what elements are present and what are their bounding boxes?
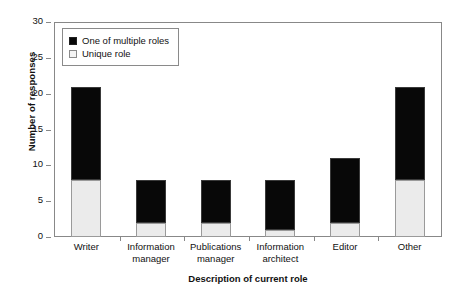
chart-legend: One of multiple roles Unique role (62, 28, 179, 66)
bar-segment-unique-role (201, 223, 231, 237)
x-axis-category-label-line: Writer (54, 241, 119, 253)
x-axis-category-label-line: Other (377, 241, 442, 253)
bar-segment-unique-role (71, 180, 101, 237)
x-axis-category-label-line: architect (248, 253, 313, 265)
x-axis-category-label: Writer (54, 241, 119, 253)
x-axis-category-label-line: Publications (183, 241, 248, 253)
bar-group (330, 158, 360, 237)
x-axis-category-label: Informationarchitect (248, 241, 313, 265)
bar-group (201, 180, 231, 237)
x-axis-category-label: Informationmanager (119, 241, 184, 265)
y-axis-title: Number of responses (26, 27, 37, 177)
bar-group (71, 87, 101, 238)
y-axis-tick-label: 25 (32, 51, 43, 62)
bar-group (136, 180, 166, 237)
x-axis-category-label-line: Information (119, 241, 184, 253)
legend-item-one-of-multiple-roles: One of multiple roles (69, 34, 169, 47)
x-axis-category-label-line: manager (183, 253, 248, 265)
y-axis-tick-mark (46, 94, 51, 95)
x-axis-category-label: Publicationsmanager (183, 241, 248, 265)
y-axis-tick-mark (46, 165, 51, 166)
y-axis-tick-mark (46, 22, 51, 23)
y-axis-tick-label: 0 (38, 230, 43, 241)
bar-segment-one-of-multiple-roles (201, 180, 231, 223)
legend-item-unique-role: Unique role (69, 47, 169, 60)
legend-label: One of multiple roles (82, 35, 169, 46)
bar-segment-one-of-multiple-roles (136, 180, 166, 223)
bar-segment-unique-role (136, 223, 166, 237)
bar-chart-figure: Number of responses 051015202530 WriterI… (0, 0, 460, 300)
bar-segment-unique-role (265, 230, 295, 237)
y-axis-tick-mark (46, 201, 51, 202)
legend-swatch-outlined-square (69, 50, 77, 58)
bar-segment-unique-role (395, 180, 425, 237)
bar-segment-one-of-multiple-roles (71, 87, 101, 180)
bar-group (265, 180, 295, 237)
y-axis-tick-label: 20 (32, 87, 43, 98)
x-axis-category-label: Other (377, 241, 442, 253)
y-axis-tick-label: 15 (32, 123, 43, 134)
x-axis-category-label-line: Editor (313, 241, 378, 253)
x-axis-category-label-line: Information (248, 241, 313, 253)
bar-segment-unique-role (330, 223, 360, 237)
legend-label: Unique role (82, 48, 131, 59)
bar-segment-one-of-multiple-roles (265, 180, 295, 230)
x-axis-category-label: Editor (313, 241, 378, 253)
bar-group (395, 87, 425, 238)
y-axis-tick-mark (46, 130, 51, 131)
y-axis-tick-mark (46, 237, 51, 238)
bar-segment-one-of-multiple-roles (330, 158, 360, 223)
legend-swatch-filled-square (69, 37, 77, 45)
y-axis-tick-label: 30 (32, 15, 43, 26)
bar-segment-one-of-multiple-roles (395, 87, 425, 180)
y-axis-tick-label: 5 (38, 194, 43, 205)
y-axis-tick-label: 10 (32, 158, 43, 169)
y-axis-tick-mark (46, 58, 51, 59)
x-axis-category-label-line: manager (119, 253, 184, 265)
x-axis-title: Description of current role (54, 273, 442, 284)
